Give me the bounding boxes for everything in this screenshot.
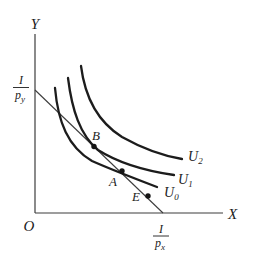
point-b-dot xyxy=(91,144,96,149)
x-intercept-numerator: I xyxy=(158,222,164,236)
y-intercept-fraction: I py xyxy=(13,73,29,104)
point-e-dot xyxy=(145,193,150,198)
curve-label-u2: U2 xyxy=(188,149,203,166)
indifference-curve-u1 xyxy=(68,78,174,175)
point-a-dot xyxy=(119,168,124,173)
y-intercept-denominator-subscript: y xyxy=(20,94,25,104)
indifference-curve-diagram: Y X O I py I px U2 U1 U0 B A E xyxy=(0,0,254,258)
point-e-label: E xyxy=(131,189,140,204)
curve-label-u1: U1 xyxy=(178,172,193,189)
point-a-label: A xyxy=(108,174,117,189)
indifference-curve-u0 xyxy=(55,88,157,187)
y-axis-label: Y xyxy=(31,16,41,32)
x-intercept-fraction: I px xyxy=(153,222,169,252)
x-intercept-denominator-subscript: x xyxy=(160,242,165,252)
y-intercept-denominator: py xyxy=(14,88,25,104)
y-intercept-numerator: I xyxy=(18,73,24,87)
curve-label-u0: U0 xyxy=(164,185,179,202)
point-b-label: B xyxy=(92,128,100,143)
x-axis-label: X xyxy=(227,206,238,222)
x-intercept-denominator: px xyxy=(154,236,165,252)
diagram-canvas: Y X O I py I px U2 U1 U0 B A E xyxy=(0,0,254,258)
origin-label: O xyxy=(24,218,35,234)
